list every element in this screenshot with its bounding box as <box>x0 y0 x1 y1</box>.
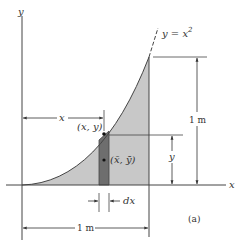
height-dim-label: 1 m <box>189 115 207 125</box>
y-axis-label: y <box>17 6 24 17</box>
centroid-label: (x̄, ȳ) <box>110 154 136 165</box>
curve-label: y = x2 <box>161 26 193 39</box>
x-axis-label: x <box>229 179 235 190</box>
subfigure-label: (a) <box>188 214 200 224</box>
point-label: (x, y) <box>77 121 103 132</box>
curve-leader-dashed <box>149 28 158 57</box>
dx-label: dx <box>123 195 135 206</box>
width-dim-label: 1 m <box>77 223 95 233</box>
y-dim-label: y <box>168 151 175 162</box>
x-dim-label: x <box>59 112 65 123</box>
diagram-canvas: y x y = x2 1 m y x (x, y) (x̄, ȳ) dx 1 m… <box>0 0 240 247</box>
centroid-point <box>102 158 105 161</box>
point-x-y <box>102 132 106 136</box>
